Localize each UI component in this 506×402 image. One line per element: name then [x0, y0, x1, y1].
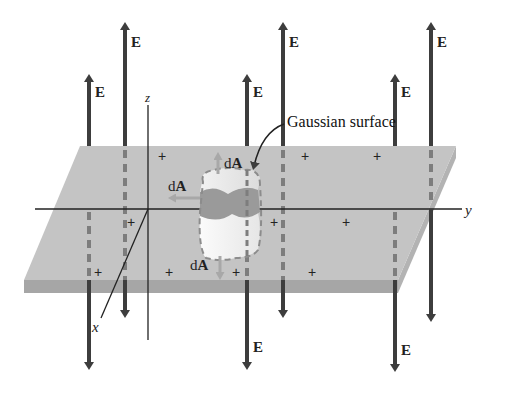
gaussian-surface-label: Gaussian surface: [287, 113, 396, 130]
dA-label-top: dA: [224, 155, 243, 171]
E-label: E: [131, 34, 141, 50]
charge-plus: +: [165, 264, 173, 280]
dA-label-side: dA: [168, 178, 187, 194]
charge-plus: +: [94, 264, 102, 280]
E-label: E: [253, 84, 263, 100]
axis-label-z: z: [144, 90, 150, 105]
charge-plus: +: [270, 214, 278, 230]
charge-plus: +: [301, 148, 309, 164]
charge-plus: +: [342, 214, 350, 230]
axis-label-y: y: [463, 202, 472, 218]
cylinder-lower: [200, 212, 260, 260]
E-label: E: [95, 84, 105, 100]
charge-plus: +: [232, 264, 240, 280]
E-label: E: [253, 339, 263, 355]
charge-plus: +: [373, 148, 381, 164]
charge-plus: +: [308, 264, 316, 280]
E-label: E: [437, 34, 447, 50]
gaussian-cylinder: [200, 168, 262, 262]
gauss-law-sheet-diagram: y z x dA dA dA Gaussian surface + + + + …: [0, 0, 506, 402]
dA-label-bottom: dA: [190, 257, 209, 273]
axis-label-x: x: [91, 319, 99, 335]
E-label: E: [401, 84, 411, 100]
sheet-front-edge: [24, 280, 398, 293]
E-label: E: [289, 34, 299, 50]
charge-plus: +: [127, 214, 135, 230]
E-label: E: [401, 342, 411, 358]
charge-plus: +: [158, 148, 166, 164]
